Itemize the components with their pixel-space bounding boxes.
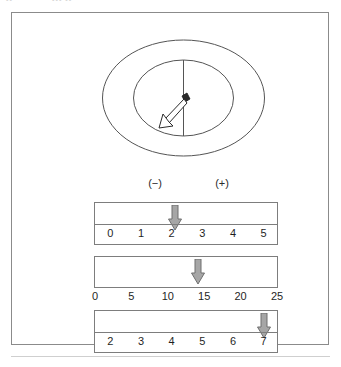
scale-tick-lane: 0510152025 [94,288,278,306]
scale-tick-label: 25 [271,290,283,302]
scale-tick-label: 5 [261,227,267,239]
scale-0-to-5: 012345 [94,202,278,245]
scale-tick-label: 10 [162,290,174,302]
scale-tick-lane: 234567 [95,332,277,352]
scale-tick-label: 15 [198,290,210,302]
scale-tick-label: 4 [169,335,175,347]
scale-bar: 012345 [94,202,278,245]
scale-tick-label: 0 [107,227,113,239]
scale-tick-label: 2 [169,227,175,239]
analog-meter-dial [101,34,266,162]
page-bottom-rule [11,356,330,357]
scale-tick-lane: 012345 [95,224,277,244]
dial-needle [159,93,190,128]
scale-pointer-lane [95,311,277,332]
polarity-label-negative: (−) [138,177,172,189]
scale-bar: 234567 [94,310,278,353]
scale-2-to-7: 234567 [94,310,278,353]
scale-tick-label: 20 [234,290,246,302]
scale-pointer-arrow [190,259,205,285]
scale-tick-label: 5 [199,335,205,347]
page-header-strip: •• ••• •• [0,0,341,11]
scale-tick-label: 4 [230,227,236,239]
scale-bar [94,256,278,288]
scale-0-to-25: 0510152025 [94,256,278,306]
scale-tick-label: 7 [261,335,267,347]
scale-tick-label: 5 [128,290,134,302]
header-ghost-text-right: ••• •• [52,0,72,3]
figure-border: (−) (+) 012345 0510152025 234567 [11,12,329,345]
scale-pointer-lane [95,257,277,278]
scale-pointer-lane [95,203,277,224]
scale-tick-label: 0 [92,290,98,302]
figure-page: •• ••• •• (−) (+) 0123 [0,0,341,367]
header-ghost-text-left: •• [6,0,13,3]
polarity-label-positive: (+) [205,177,239,189]
scale-tick-label: 3 [138,335,144,347]
scale-tick-label: 3 [199,227,205,239]
scale-tick-label: 6 [230,335,236,347]
scale-tick-label: 1 [138,227,144,239]
scale-tick-label: 2 [107,335,113,347]
